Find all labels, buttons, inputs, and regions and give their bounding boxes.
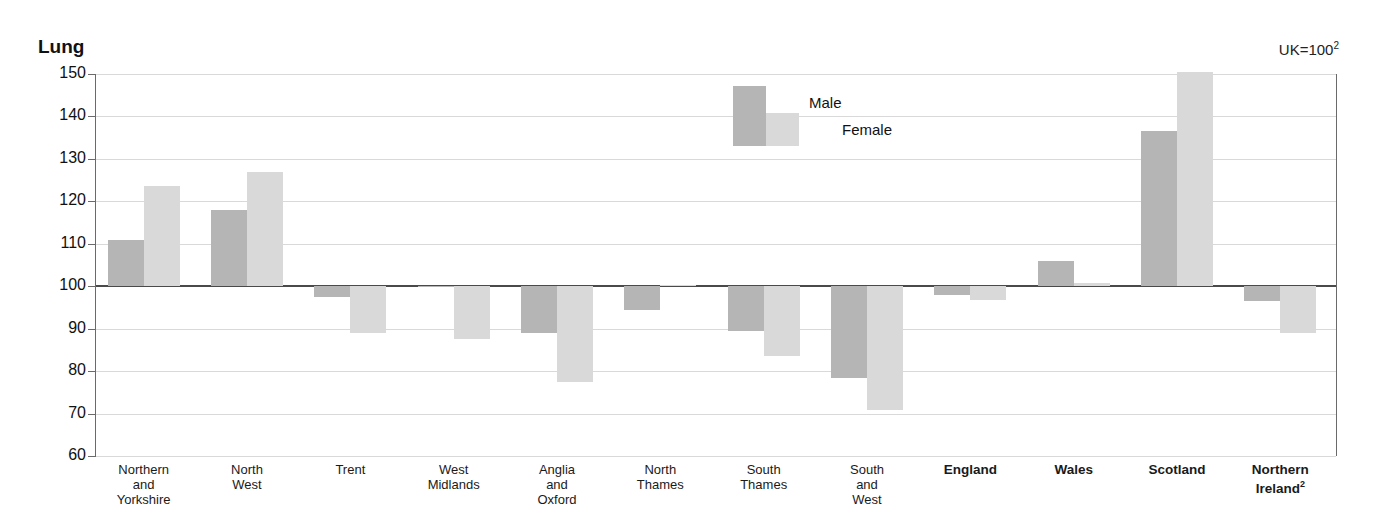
y-tick-label-150: 150 — [26, 64, 86, 82]
bar-male-7 — [831, 286, 867, 378]
x-category-label-line: Scotland — [1117, 462, 1237, 477]
y-tick-label-140: 140 — [26, 106, 86, 124]
x-category-label-line: West — [187, 477, 307, 492]
x-category-label-line: and — [807, 477, 927, 492]
x-category-label-line: North — [187, 462, 307, 477]
y-tick-label-60: 60 — [26, 446, 86, 464]
bar-male-1 — [211, 210, 247, 286]
bar-female-9 — [1074, 283, 1110, 286]
x-category-label-7: SouthandWest — [807, 462, 927, 507]
x-category-label-line: Wales — [1014, 462, 1134, 477]
x-category-label-8: England — [910, 462, 1030, 477]
x-category-label-line: Thames — [704, 477, 824, 492]
y-tick-mark-70 — [88, 414, 96, 415]
x-category-label-line: England — [910, 462, 1030, 477]
x-category-label-line: West — [807, 492, 927, 507]
y-axis-right — [1336, 74, 1337, 456]
x-category-label-line: West — [394, 462, 514, 477]
y-tick-mark-140 — [88, 116, 96, 117]
legend-swatch-male — [733, 86, 766, 146]
bar-male-4 — [521, 286, 557, 333]
bar-female-8 — [970, 286, 1006, 300]
bar-female-1 — [247, 172, 283, 287]
x-category-label-line: Thames — [600, 477, 720, 492]
x-category-label-line: and — [497, 477, 617, 492]
x-category-label-1: NorthWest — [187, 462, 307, 492]
gridline-90 — [96, 329, 1336, 330]
bar-female-10 — [1177, 72, 1213, 286]
bar-female-11 — [1280, 286, 1316, 333]
bar-male-8 — [934, 286, 970, 294]
y-tick-mark-90 — [88, 329, 96, 330]
bar-female-5 — [660, 285, 696, 286]
x-category-label-5: NorthThames — [600, 462, 720, 492]
chart-title: Lung — [38, 36, 84, 58]
uk-index-text: UK=100 — [1279, 41, 1334, 58]
legend-label-male: Male — [809, 94, 842, 111]
x-category-label-2: Trent — [290, 462, 410, 477]
x-category-label-line: South — [704, 462, 824, 477]
x-category-label-line: North — [600, 462, 720, 477]
x-category-label-4: AngliaandOxford — [497, 462, 617, 507]
bar-male-11 — [1244, 286, 1280, 301]
gridline-70 — [96, 414, 1336, 415]
y-tick-mark-150 — [88, 74, 96, 75]
y-tick-mark-60 — [88, 456, 96, 457]
gridline-150 — [96, 74, 1336, 75]
y-tick-mark-100 — [88, 286, 96, 287]
bar-male-0 — [108, 240, 144, 287]
y-tick-label-90: 90 — [26, 319, 86, 337]
bar-male-2 — [314, 286, 350, 297]
y-tick-label-70: 70 — [26, 404, 86, 422]
x-category-label-line: South — [807, 462, 927, 477]
y-tick-label-120: 120 — [26, 191, 86, 209]
x-category-footnote-marker-11: 2 — [1300, 479, 1305, 489]
y-tick-label-130: 130 — [26, 149, 86, 167]
x-category-label-3: WestMidlands — [394, 462, 514, 492]
chart-page: 1.16 Lung UK=1002 6070809010011012013014… — [0, 0, 1381, 530]
x-category-label-line: Trent — [290, 462, 410, 477]
x-category-label-line: Oxford — [497, 492, 617, 507]
bar-female-7 — [867, 286, 903, 410]
x-category-label-line: Northern — [1220, 462, 1340, 477]
bar-female-6 — [764, 286, 800, 356]
y-tick-label-110: 110 — [26, 234, 86, 252]
x-category-label-11: NorthernIreland2 — [1220, 462, 1340, 496]
x-category-label-9: Wales — [1014, 462, 1134, 477]
y-tick-mark-110 — [88, 244, 96, 245]
gridline-80 — [96, 371, 1336, 372]
gridline-60 — [96, 456, 1336, 457]
bar-female-4 — [557, 286, 593, 382]
x-category-label-line: Midlands — [394, 477, 514, 492]
bar-male-3 — [418, 286, 454, 287]
y-tick-mark-120 — [88, 201, 96, 202]
y-tick-label-100: 100 — [26, 276, 86, 294]
x-category-label-line: Northern — [84, 462, 204, 477]
legend-swatch-female — [766, 113, 799, 146]
uk-index-footnote-marker: 2 — [1333, 40, 1339, 51]
y-tick-label-80: 80 — [26, 361, 86, 379]
x-category-label-6: SouthThames — [704, 462, 824, 492]
bar-male-9 — [1038, 261, 1074, 286]
x-category-label-0: NorthernandYorkshire — [84, 462, 204, 507]
bar-female-3 — [454, 286, 490, 339]
x-category-label-line: Ireland2 — [1220, 477, 1340, 496]
bar-female-0 — [144, 186, 180, 286]
bar-male-5 — [624, 286, 660, 309]
gridline-140 — [96, 116, 1336, 117]
uk-index-note: UK=1002 — [1279, 40, 1339, 58]
plot-area — [96, 74, 1336, 456]
y-tick-mark-80 — [88, 371, 96, 372]
bar-female-2 — [350, 286, 386, 333]
x-category-label-line: Yorkshire — [84, 492, 204, 507]
x-category-label-line: Anglia — [497, 462, 617, 477]
x-category-label-10: Scotland — [1117, 462, 1237, 477]
x-category-label-line: and — [84, 477, 204, 492]
legend-label-female: Female — [842, 121, 892, 138]
bar-male-10 — [1141, 131, 1177, 286]
y-tick-mark-130 — [88, 159, 96, 160]
bar-male-6 — [728, 286, 764, 331]
